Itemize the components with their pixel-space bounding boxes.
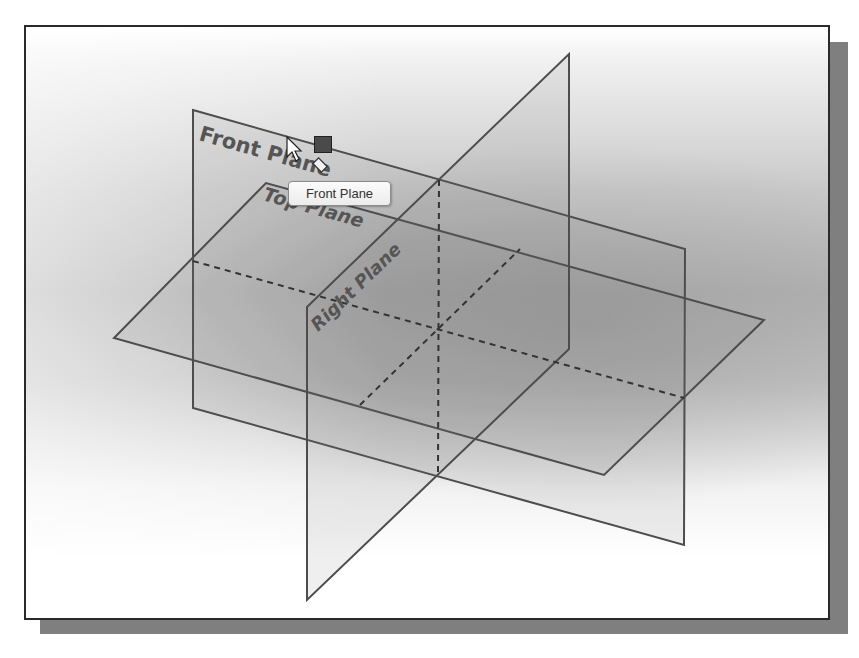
datum-planes-scene: Front Plane Top Plane Right Plane [0, 0, 859, 658]
selection-handle-icon[interactable] [314, 136, 332, 153]
front-plane-tooltip: Front Plane [288, 181, 391, 206]
tooltip-text: Front Plane [306, 186, 373, 201]
